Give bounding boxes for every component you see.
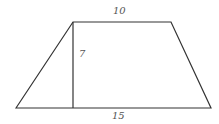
top-base-label: 10 [113,5,126,16]
height-label: 7 [79,48,86,59]
bottom-base-label: 15 [112,110,125,121]
trapezoid-shape [16,22,211,108]
trapezoid-diagram: 10 7 15 [0,0,219,124]
